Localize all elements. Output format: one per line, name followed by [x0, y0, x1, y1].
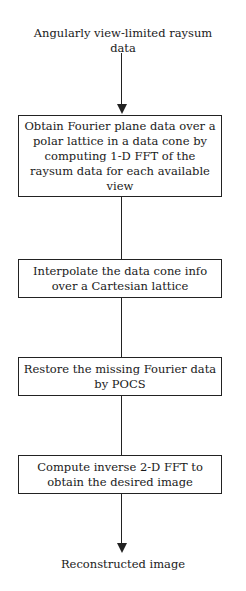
connector-3-4 — [121, 396, 122, 455]
arrow-shaft-input — [121, 53, 122, 105]
step-box-2: Interpolate the data cone info over a Ca… — [18, 259, 222, 298]
step-1-text: Obtain Fourier plane data over a polar l… — [23, 119, 217, 194]
arrow-head-input — [117, 104, 127, 114]
step-3-text: Restore the missing Fourier data by POCS — [23, 362, 217, 392]
step-2-text: Interpolate the data cone info over a Ca… — [23, 264, 217, 294]
step-box-4: Compute inverse 2-D FFT to obtain the de… — [18, 455, 222, 494]
arrow-head-output — [117, 543, 127, 553]
connector-1-2 — [121, 197, 122, 259]
arrow-shaft-output — [121, 494, 122, 544]
step-4-text: Compute inverse 2-D FFT to obtain the de… — [23, 460, 217, 490]
output-label: Reconstructed image — [0, 557, 246, 572]
input-label: Angularly view-limited raysum data — [0, 26, 246, 56]
connector-2-3 — [121, 298, 122, 357]
step-box-3: Restore the missing Fourier data by POCS — [18, 357, 222, 396]
step-box-1: Obtain Fourier plane data over a polar l… — [18, 115, 222, 197]
